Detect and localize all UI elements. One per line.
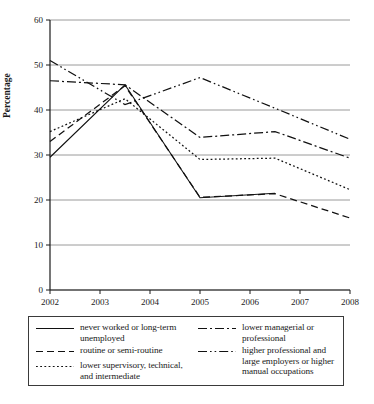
y-axis-tick-label: 60 [34,15,44,25]
y-axis-tick-label: 20 [34,195,44,205]
series-line [50,99,350,190]
legend-item[interactable]: lower managerial or professional [197,322,341,343]
y-axis-tick-label: 50 [34,60,44,70]
legend-line-sample [35,322,75,335]
legend-item[interactable]: lower supervisory, technical, and interm… [35,360,193,381]
legend-item-label: never worked or long-term unemployed [80,322,193,343]
legend-key-dotted-icon [35,360,75,373]
x-axis-tick-label: 2002 [41,297,59,307]
legend-line-sample [35,360,75,373]
legend-line-sample [197,322,237,335]
y-axis-tick-label: 10 [34,240,44,250]
x-axis-tick-label: 2008 [341,297,360,307]
legend-key-solid-icon [35,322,75,335]
series-line [50,81,350,158]
y-axis-tick-label: 0 [39,285,44,295]
x-axis-tick-label: 2006 [241,297,260,307]
legend-item-label: lower supervisory, technical, and interm… [80,360,193,381]
chart-legend: never worked or long-term unemployedrout… [28,316,344,386]
legend-key-dashed-icon [35,345,75,358]
x-axis-tick-label: 2007 [291,297,310,307]
legend-item[interactable]: never worked or long-term unemployed [35,322,193,343]
legend-line-sample [35,345,75,358]
legend-line-sample [197,345,237,358]
y-axis-tick-label: 30 [34,150,44,160]
legend-key-dash-dot-icon [197,322,237,335]
legend-item-label: higher professional and large employers … [242,345,341,377]
series-line [50,61,350,140]
legend-item-label: lower managerial or professional [242,322,341,343]
chart-figure: Percentage 01020304050602002200320042005… [0,0,374,404]
legend-key-dash-dot-dot-icon [197,345,237,358]
line-chart-plot: 0102030405060200220032004200520062007200… [0,0,374,310]
x-axis-tick-label: 2005 [191,297,210,307]
legend-item[interactable]: routine or semi-routine [35,345,193,358]
y-axis-tick-label: 40 [34,105,44,115]
x-axis-tick-label: 2003 [91,297,110,307]
legend-column-right: lower managerial or professionalhigher p… [197,322,341,379]
x-axis-tick-label: 2004 [141,297,160,307]
legend-item-label: routine or semi-routine [80,345,162,356]
legend-column-left: never worked or long-term unemployedrout… [35,322,193,383]
legend-item[interactable]: higher professional and large employers … [197,345,341,377]
